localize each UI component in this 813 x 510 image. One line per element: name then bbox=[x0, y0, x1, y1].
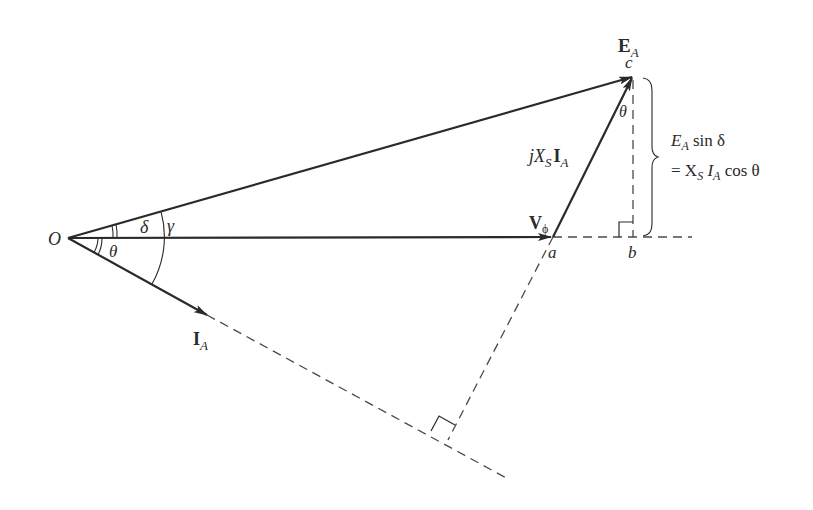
delta-arc-2 bbox=[116, 225, 117, 239]
phasor-diagram: O a b c EA Vϕ IA jXSIA δ γ θ θ EA sin δ … bbox=[0, 0, 813, 510]
theta-arc bbox=[94, 238, 98, 253]
vphi-label: Vϕ bbox=[529, 213, 548, 236]
jxsia-dashed-extension bbox=[448, 237, 553, 440]
brace bbox=[643, 78, 658, 236]
theta-c-label: θ bbox=[619, 103, 627, 120]
equation-line-2: = XS IA cos θ bbox=[671, 161, 760, 183]
jxsia-label: jXSIA bbox=[527, 146, 569, 170]
equation-line-1: EA sin δ bbox=[670, 131, 725, 153]
right-angle-marker-b bbox=[619, 222, 633, 237]
theta-arc-2 bbox=[98, 238, 102, 255]
ia-phasor bbox=[68, 238, 207, 315]
right-angle-marker-foot bbox=[431, 416, 455, 431]
theta-origin-label: θ bbox=[109, 242, 117, 261]
delta-arc bbox=[112, 226, 113, 239]
gamma-label: γ bbox=[167, 216, 175, 236]
origin-label: O bbox=[48, 229, 61, 249]
ia-dashed-extension bbox=[207, 315, 510, 480]
gamma-arc bbox=[152, 212, 164, 285]
point-a-label: a bbox=[548, 243, 557, 262]
ia-label: IA bbox=[193, 329, 208, 353]
point-b-label: b bbox=[628, 243, 637, 262]
vphi-phasor bbox=[68, 237, 551, 238]
delta-label: δ bbox=[140, 217, 149, 237]
